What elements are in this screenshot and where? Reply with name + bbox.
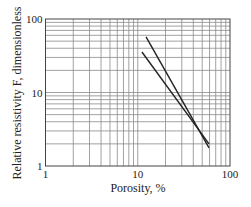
x-tick-label: 10 bbox=[132, 168, 144, 180]
x-axis-label: Porosity, % bbox=[110, 181, 165, 195]
series-line-shallow bbox=[142, 52, 209, 144]
y-tick-labels: 1 10 100 bbox=[26, 13, 43, 172]
log-log-chart: 1 10 100 1 10 100 Porosity, % Relative r… bbox=[0, 0, 251, 207]
grid-lines bbox=[46, 19, 231, 166]
y-tick-label: 10 bbox=[32, 87, 44, 99]
y-tick-label: 1 bbox=[37, 160, 43, 172]
x-tick-labels: 1 10 100 bbox=[43, 168, 239, 180]
y-axis-label: Relative resistivity F, dimensionless bbox=[10, 6, 24, 179]
x-tick-label: 100 bbox=[222, 168, 239, 180]
x-tick-label: 1 bbox=[43, 168, 49, 180]
y-tick-label: 100 bbox=[26, 13, 43, 25]
